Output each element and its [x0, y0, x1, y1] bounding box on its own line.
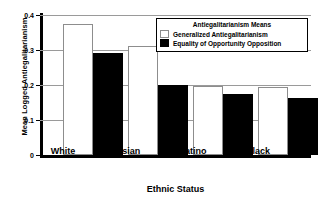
y-tick-label: 0.3 — [24, 47, 34, 54]
x-tick-label-black: Black — [223, 146, 293, 156]
y-tick-label: 0.4 — [24, 12, 34, 19]
chart-legend: Antiegalitarianism Means Generalized Ant… — [156, 18, 308, 52]
x-axis-title: Ethnic Status — [40, 184, 311, 194]
y-tick-label: 0.1 — [24, 117, 34, 124]
x-tick-label-latino: Latino — [158, 146, 228, 156]
bar-white-generalized — [63, 24, 93, 155]
bar-asian-equality — [158, 85, 188, 155]
legend-item-generalized: Generalized Antiegalitarianism — [160, 30, 304, 38]
legend-swatch-equality-icon — [160, 39, 169, 47]
legend-title: Antiegalitarianism Means — [160, 21, 304, 28]
y-tick-label: 0.2 — [24, 82, 34, 89]
chart-figure: Mean Logged Antiegalitarianism 0.4 0.3 0… — [0, 0, 320, 205]
y-axis-title: Mean Logged Antiegalitarianism — [20, 2, 29, 152]
bar-black-generalized — [258, 87, 288, 155]
x-tick-label-asian: Asian — [93, 146, 163, 156]
legend-label-generalized: Generalized Antiegalitarianism — [173, 31, 268, 38]
bar-latino-generalized — [193, 86, 223, 155]
bar-white-equality — [93, 53, 123, 155]
legend-label-equality: Equality of Opportunity Opposition — [173, 40, 281, 47]
x-tick-label-white: White — [28, 146, 98, 156]
bar-asian-generalized — [128, 46, 158, 155]
legend-swatch-generalized-icon — [160, 30, 169, 38]
legend-item-equality: Equality of Opportunity Opposition — [160, 39, 304, 47]
